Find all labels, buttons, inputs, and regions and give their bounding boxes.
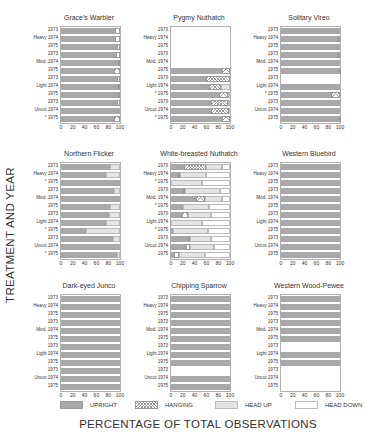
row-label: 1973 <box>268 50 278 58</box>
row-label: Light 1974 <box>37 350 58 358</box>
bar-row <box>281 28 340 34</box>
bar-row <box>281 188 340 194</box>
bar-segment-hanging <box>114 68 120 74</box>
row-label: * 1975 <box>45 178 58 186</box>
bar-segment-upright <box>61 100 117 106</box>
bar-row <box>281 68 340 74</box>
bar-segment-headdown <box>220 188 230 194</box>
plot-area <box>60 162 121 260</box>
plot-area <box>60 294 121 392</box>
bar-row <box>61 368 120 374</box>
bar-segment-upright <box>171 100 211 106</box>
bar-row <box>171 164 230 170</box>
bar-segment-upright <box>61 228 86 234</box>
legend: UPRIGHTHANGINGHEAD UPHEAD DOWN <box>60 401 360 413</box>
bar-row <box>171 196 230 202</box>
bar-segment-headup <box>188 212 212 218</box>
bar-segment-upright <box>61 116 114 122</box>
x-tick-label: 0 <box>170 392 173 398</box>
bar-segment-upright <box>171 164 184 170</box>
bar-segment-upright <box>281 196 340 202</box>
bar-row <box>61 296 120 302</box>
bar-segment-upright <box>171 196 196 202</box>
bar-row <box>61 196 120 202</box>
row-label: 1975 <box>48 382 58 390</box>
x-tick-label: 80 <box>325 392 331 398</box>
x-axis: 020406080100 <box>280 260 341 270</box>
bar-segment-headdown <box>211 212 230 218</box>
row-label: Uncut 1974 <box>35 242 59 250</box>
bar-row <box>281 320 340 326</box>
bar-segment-upright <box>171 320 230 326</box>
bar-segment-upright <box>171 92 219 98</box>
panel-chipping-sparrow: Chipping Sparrow1973Heavy 197419751973Mo… <box>130 282 240 407</box>
bar-row <box>61 28 120 34</box>
bar-segment-upright <box>171 328 230 334</box>
bar-row <box>171 228 230 234</box>
plot-area <box>280 162 341 260</box>
bar-segment-headup <box>229 108 231 114</box>
row-label: Heavy 1974 <box>143 34 168 42</box>
legend-swatch <box>60 401 83 409</box>
bar-segment-upright <box>61 60 118 66</box>
bar-segment-upright <box>61 336 120 342</box>
x-tick-label: 80 <box>215 260 221 266</box>
bar-segment-upright <box>171 352 230 358</box>
x-tick-label: 20 <box>70 392 76 398</box>
bar-segment-upright <box>281 116 339 122</box>
bar-segment-upright <box>61 204 110 210</box>
plot-area <box>60 26 121 124</box>
row-label: Uncut 1974 <box>255 106 279 114</box>
bar-segment-upright <box>61 36 115 42</box>
row-label: 1973 <box>268 294 278 302</box>
row-label: Mod. 1974 <box>256 58 278 66</box>
bar-segment-upright <box>281 312 340 318</box>
bar-segment-headdown <box>205 252 230 258</box>
bar-segment-upright <box>281 108 340 114</box>
row-label: 1973 <box>268 342 278 350</box>
bar-row <box>171 108 230 114</box>
x-tick-label: 100 <box>336 392 344 398</box>
row-label: Mod. 1974 <box>146 326 168 334</box>
bar-segment-headdown <box>206 172 230 178</box>
x-tick-label: 0 <box>60 260 63 266</box>
bar-segment-upright <box>171 68 222 74</box>
x-tick-label: 80 <box>215 392 221 398</box>
x-axis: 020406080100 <box>170 260 231 270</box>
row-label: 1975 <box>268 114 278 122</box>
panel-western-bluebird: Western Bluebird1973Heavy 197419751973Mo… <box>240 150 350 275</box>
x-tick-label: 40 <box>302 260 308 266</box>
bar-segment-upright <box>61 92 118 98</box>
bar-segment-headup <box>86 228 120 234</box>
bar-row <box>61 100 120 106</box>
panel-title: Dark-eyed Junco <box>48 282 130 289</box>
bar-row <box>61 92 120 98</box>
bar-segment-upright <box>171 244 186 250</box>
bar-row <box>61 360 120 366</box>
panel-title: Grace's Warbler <box>48 14 130 21</box>
x-tick-label: 80 <box>325 124 331 130</box>
row-label: 1973 <box>48 342 58 350</box>
y-axis-title: TREATMENT AND YEAR <box>2 150 18 320</box>
bar-row <box>281 84 340 90</box>
bar-segment-upright <box>171 304 230 310</box>
row-label: Uncut 1974 <box>255 374 279 382</box>
bar-segment-headdown <box>209 204 230 210</box>
bar-segment-hanging <box>117 76 120 82</box>
bar-segment-hanging <box>117 100 120 106</box>
row-label: 1973 <box>48 74 58 82</box>
row-label: 1975 <box>48 90 58 98</box>
row-label: 1973 <box>158 210 168 218</box>
x-tick-label: 0 <box>60 124 63 130</box>
bar-segment-headup <box>173 228 208 234</box>
bar-row <box>61 244 120 250</box>
row-label: Light 1974 <box>37 82 58 90</box>
bar-segment-upright <box>61 44 117 50</box>
row-label: 1975 <box>268 66 278 74</box>
bar-row <box>61 36 120 42</box>
row-label: 1973 <box>158 318 168 326</box>
bar-segment-upright <box>61 52 116 58</box>
row-label: 1973 <box>268 366 278 374</box>
bar-segment-upright <box>281 328 340 334</box>
bar-segment-upright <box>61 344 120 350</box>
